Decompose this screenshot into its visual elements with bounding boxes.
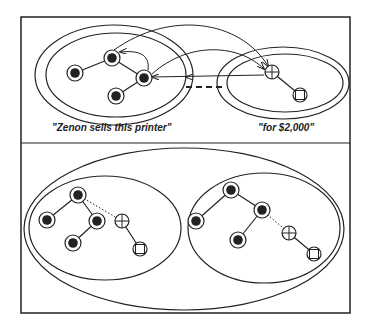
plus-node [282, 226, 296, 240]
filled-node [108, 88, 124, 104]
filled-node [223, 182, 239, 198]
left-subgroup-ellipse [29, 176, 181, 280]
right-group-outer-ellipse [217, 47, 349, 119]
filled-node [136, 70, 152, 86]
square-node [133, 242, 147, 256]
right-group-label: "for $2,000" [258, 122, 314, 133]
filled-node [89, 213, 105, 229]
filled-node [230, 232, 246, 248]
filled-node [39, 212, 55, 228]
arrow-left-to-right-lower [152, 50, 264, 74]
right-subgroup-ellipse [188, 173, 340, 283]
filled-node [254, 202, 270, 218]
arrow-left-to-right-upper [114, 25, 268, 66]
left-group-outer-ellipse [35, 25, 193, 125]
left-group-label: "Zenon sells this printer" [52, 122, 172, 133]
filled-node [188, 213, 204, 229]
diagram: "Zenon sells this printer" "for $2,000" [0, 0, 370, 330]
bottom-panel [24, 148, 344, 310]
plus-node [115, 214, 129, 228]
figure-frame [21, 17, 350, 313]
plus-node [265, 65, 279, 79]
outer-enclosing-ellipse [24, 148, 344, 310]
filled-node [65, 235, 81, 251]
arrow-local-loop [120, 52, 148, 70]
filled-node [70, 187, 86, 203]
square-node [307, 247, 321, 261]
arrow-right-to-left [152, 75, 264, 77]
square-node [293, 88, 307, 102]
filled-node [104, 50, 120, 66]
top-panel: "Zenon sells this printer" "for $2,000" [35, 25, 349, 133]
filled-node [67, 65, 83, 81]
